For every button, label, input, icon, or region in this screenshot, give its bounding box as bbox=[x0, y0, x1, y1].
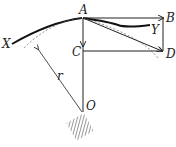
label-o: O bbox=[86, 99, 96, 113]
path-curve-xa bbox=[12, 18, 82, 44]
label-d: D bbox=[165, 47, 176, 61]
label-a: A bbox=[78, 3, 88, 17]
label-x: X bbox=[1, 37, 11, 51]
diagram: A B Y C D X r O bbox=[0, 0, 176, 147]
label-b: B bbox=[165, 11, 175, 25]
label-r: r bbox=[57, 69, 64, 83]
label-c: C bbox=[72, 45, 81, 59]
dashed-parabola bbox=[83, 18, 158, 58]
label-y: Y bbox=[151, 23, 160, 37]
hatched-support bbox=[66, 113, 93, 140]
